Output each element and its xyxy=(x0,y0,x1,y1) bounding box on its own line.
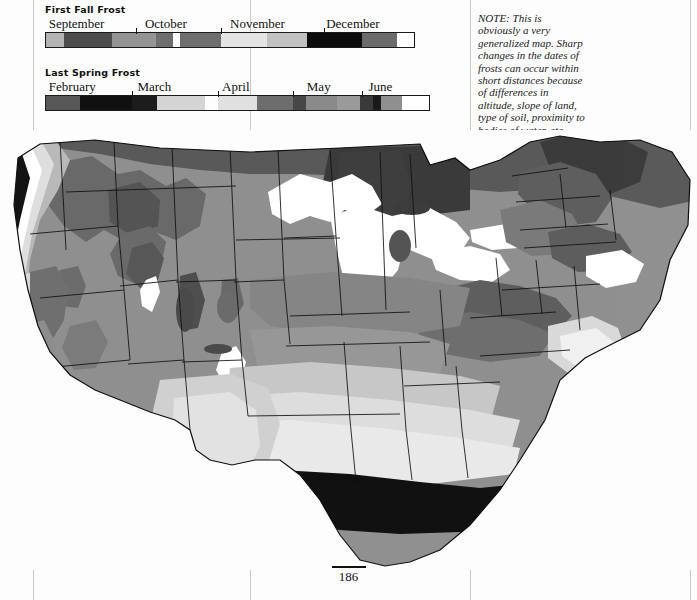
zone-spot-c xyxy=(204,344,232,354)
legend-month-label-october: October xyxy=(145,16,187,32)
legend-month-label-april: April xyxy=(222,79,249,95)
legend-title-spring: Last Spring Frost xyxy=(45,67,430,78)
legend-segment-6 xyxy=(221,33,267,47)
legend-month-label-december: December xyxy=(326,16,379,32)
legend-segment-9 xyxy=(362,33,397,47)
legend-segment-2 xyxy=(112,33,156,47)
legend-tick-2 xyxy=(324,28,325,34)
legend-segment-5 xyxy=(180,33,220,47)
legend-segment-7 xyxy=(267,33,307,47)
legend-segment-4 xyxy=(205,96,218,110)
legend-segment-0 xyxy=(46,96,80,110)
legend-segment-8 xyxy=(307,33,362,47)
legend-segment-13 xyxy=(402,96,429,110)
legend-segment-10 xyxy=(360,96,373,110)
legend-segment-2 xyxy=(132,96,157,110)
legend-tick-1 xyxy=(218,91,219,97)
legend-tick-2 xyxy=(293,91,294,97)
page-number: 186 xyxy=(0,569,697,585)
legend-segment-3 xyxy=(156,33,173,47)
legend-month-label-november: November xyxy=(230,16,285,32)
legend-month-label-february: February xyxy=(49,79,96,95)
legend-segment-7 xyxy=(293,96,306,110)
legend-bar-fall xyxy=(45,32,415,48)
legend-title-fall: First Fall Frost xyxy=(45,4,415,15)
legend-first-fall-frost: First Fall Frost SeptemberOctoberNovembe… xyxy=(45,4,415,48)
legend-month-label-september: September xyxy=(49,16,105,32)
legend-segment-1 xyxy=(80,96,132,110)
legend-segment-10 xyxy=(397,33,414,47)
legend-month-label-may: May xyxy=(307,79,331,95)
legend-month-label-march: March xyxy=(137,79,171,95)
legend-segment-6 xyxy=(257,96,293,110)
legend-month-labels-spring: FebruaryMarchAprilMayJune xyxy=(45,80,430,95)
legend-segment-4 xyxy=(173,33,180,47)
legend-segment-3 xyxy=(157,96,205,110)
legend-bar-spring xyxy=(45,95,430,111)
legend-month-label-june: June xyxy=(368,79,392,95)
folio-rule xyxy=(332,566,366,568)
page-folio: 186 xyxy=(0,566,697,585)
zone-upper-peninsula-spot xyxy=(394,201,430,215)
zone-michigan-dark-spot xyxy=(389,230,411,262)
legend-month-labels-fall: SeptemberOctoberNovemberDecember xyxy=(45,17,415,32)
legend-segment-8 xyxy=(306,96,337,110)
legend-tick-0 xyxy=(136,28,137,34)
legend-segment-9 xyxy=(337,96,360,110)
scanned-book-page: First Fall Frost SeptemberOctoberNovembe… xyxy=(0,0,697,600)
legend-tick-1 xyxy=(221,28,222,34)
legend-segment-11 xyxy=(373,96,381,110)
us-frost-map xyxy=(0,130,697,570)
zone-spot-b xyxy=(217,291,239,323)
legend-last-spring-frost: Last Spring Frost FebruaryMarchAprilMayJ… xyxy=(45,67,430,111)
legend-segment-5 xyxy=(218,96,256,110)
legend-tick-3 xyxy=(362,91,363,97)
legend-segment-12 xyxy=(381,96,402,110)
us-frost-map-svg xyxy=(0,130,697,570)
legend-segment-1 xyxy=(64,33,112,47)
legend-segment-0 xyxy=(46,33,64,47)
legend-tick-0 xyxy=(132,91,133,97)
